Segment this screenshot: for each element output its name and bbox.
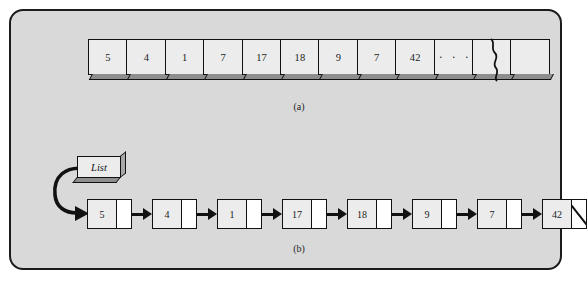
list-node-pointer — [117, 199, 132, 229]
array-figure: 541717189742· · · — [88, 39, 492, 91]
list-node-pointer — [442, 199, 457, 229]
list-node: 1 — [217, 199, 262, 229]
list-node: 17 — [282, 199, 327, 229]
list-node: 5 — [87, 199, 132, 229]
list-node-value: 9 — [412, 199, 442, 229]
array-cell: 1 — [165, 39, 205, 75]
list-link-arrow-icon — [457, 208, 477, 220]
arrow-head — [338, 208, 347, 220]
list-link-arrow-icon — [392, 208, 412, 220]
list-node-null-pointer — [572, 199, 587, 229]
list-head-box: List — [77, 156, 121, 178]
list-link-arrow-icon — [262, 208, 282, 220]
list-link-arrow-icon — [197, 208, 217, 220]
list-node-pointer — [312, 199, 327, 229]
array-torn-edge-icon — [490, 38, 502, 82]
linked-list-chain: 54117189742 — [87, 199, 587, 229]
list-node-pointer — [182, 199, 197, 229]
arrow-head — [273, 208, 282, 220]
array-cell: 7 — [357, 39, 397, 75]
list-node: 42 — [542, 199, 587, 229]
list-link-arrow-icon — [132, 208, 152, 220]
array-cell: 42 — [395, 39, 435, 75]
array-cell: 7 — [203, 39, 243, 75]
list-node-value: 42 — [542, 199, 572, 229]
list-node-value: 17 — [282, 199, 312, 229]
list-link-arrow-icon — [522, 208, 542, 220]
list-node-value: 5 — [87, 199, 117, 229]
array-row: 541717189742· · · — [88, 39, 549, 75]
array-cell: 18 — [280, 39, 320, 75]
list-node: 9 — [412, 199, 457, 229]
figure-panel: 541717189742· · · (a) List 54117189742 (… — [9, 9, 562, 270]
array-cell: 5 — [88, 39, 128, 75]
list-node-pointer — [247, 199, 262, 229]
list-node-value: 7 — [477, 199, 507, 229]
arrow-head — [533, 208, 542, 220]
list-node-value: 1 — [217, 199, 247, 229]
list-node-pointer — [377, 199, 392, 229]
list-node: 4 — [152, 199, 197, 229]
list-node-pointer — [507, 199, 522, 229]
list-node: 7 — [477, 199, 522, 229]
caption-part-a: (a) — [269, 101, 329, 112]
array-cell: 9 — [318, 39, 358, 75]
arrow-head — [143, 208, 152, 220]
list-head-label: List — [77, 156, 121, 178]
arrow-head — [403, 208, 412, 220]
arrow-head — [208, 208, 217, 220]
array-cell: 4 — [126, 39, 166, 75]
array-cell — [510, 39, 550, 75]
array-cell: 17 — [242, 39, 282, 75]
list-node-value: 4 — [152, 199, 182, 229]
list-node-value: 18 — [347, 199, 377, 229]
arrow-head — [468, 208, 477, 220]
caption-part-b: (b) — [269, 243, 329, 254]
array-cell: · · · — [434, 39, 474, 75]
list-link-arrow-icon — [327, 208, 347, 220]
list-node: 18 — [347, 199, 392, 229]
